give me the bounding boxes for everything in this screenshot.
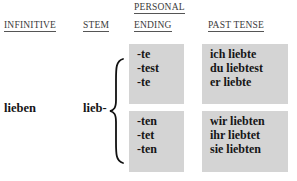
infinitive-lieben: lieben (4, 101, 36, 116)
plural-forms-box: wir liebten ihr liebtet sie liebten (202, 111, 288, 172)
singular-forms-box: ich liebte du liebtest er liebte (202, 44, 288, 104)
header-stem: STEM (83, 20, 109, 32)
plural-endings-box: -ten -tet -ten (129, 111, 184, 172)
form-er: er liebte (210, 75, 288, 89)
form-du: du liebtest (210, 61, 288, 75)
form-wir: wir liebten (210, 114, 288, 128)
singular-endings-box: -te -test -te (129, 44, 184, 104)
ending-5: -tet (137, 128, 184, 142)
header-past-tense: PAST TENSE (208, 20, 264, 32)
header-personal-ending-line1: PERSONAL (134, 2, 185, 14)
header-infinitive: INFINITIVE (4, 20, 56, 32)
ending-3: -te (137, 75, 184, 89)
ending-4: -ten (137, 114, 184, 128)
ending-2: -test (137, 61, 184, 75)
ending-6: -ten (137, 142, 184, 156)
form-ich: ich liebte (210, 47, 288, 61)
ending-1: -te (137, 47, 184, 61)
form-sie: sie liebten (210, 142, 288, 156)
form-ihr: ihr liebtet (210, 128, 288, 142)
header-personal-ending-line2: ENDING (134, 20, 172, 32)
stem-lieb: lieb- (83, 101, 107, 116)
curly-brace-icon (108, 58, 126, 164)
